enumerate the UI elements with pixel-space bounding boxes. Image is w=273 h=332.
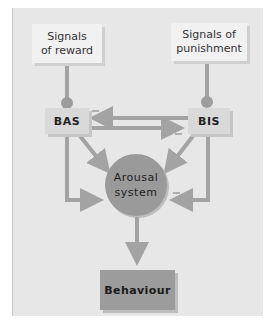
bas-loop-arrow (67, 134, 100, 200)
signals-of-punishment-line1: Signals of (182, 28, 236, 42)
arousal-system-label: Arousal system (106, 170, 166, 200)
arousal-line2: system (106, 185, 166, 200)
signals-of-reward-line2: of reward (41, 44, 93, 58)
bas-label: BAS (54, 115, 80, 128)
bis-node: BIS (188, 108, 230, 134)
bis-to-bas-arrow (92, 111, 188, 118)
behaviour-label: Behaviour (104, 284, 170, 297)
behaviour-node: Behaviour (100, 270, 175, 310)
punishment-connector (201, 62, 213, 108)
reward-connector (61, 64, 73, 109)
signals-of-punishment-node: Signals of punishment (171, 23, 247, 61)
bis-loop-arrow (173, 134, 208, 200)
bas-node: BAS (45, 108, 89, 134)
bas-to-bis-arrow (90, 128, 182, 134)
bas-to-arousal-arrow (80, 136, 108, 171)
signals-of-reward-line1: Signals (47, 30, 87, 44)
punishment-dot-icon (201, 96, 213, 108)
signals-of-punishment-line2: punishment (176, 42, 241, 56)
arousal-line1: Arousal (106, 170, 166, 185)
signals-of-reward-node: Signals of reward (32, 24, 102, 63)
bis-label: BIS (198, 115, 220, 128)
bis-to-arousal-arrow (166, 136, 193, 171)
